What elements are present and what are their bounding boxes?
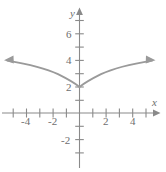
y-tick-label-2: 2 bbox=[66, 82, 72, 93]
coordinate-plane-svg bbox=[0, 0, 166, 172]
x-tick-label--2: -2 bbox=[48, 116, 57, 127]
x-tick-label-2: 2 bbox=[103, 116, 109, 127]
curve-left-arrow-icon bbox=[4, 55, 14, 63]
curve-right-arrow-icon bbox=[146, 55, 156, 63]
y-tick-label-6: 6 bbox=[66, 29, 72, 40]
x-tick-label-4: 4 bbox=[130, 116, 136, 127]
y-axis-label: y bbox=[70, 8, 75, 19]
x-tick-label--4: -4 bbox=[21, 116, 30, 127]
graph-figure: -4 -2 2 4 6 4 2 -2 x y bbox=[0, 0, 166, 172]
y-axis-arrow-icon bbox=[76, 8, 83, 16]
y-tick-label--2: -2 bbox=[61, 135, 70, 146]
y-tick-label-4: 4 bbox=[66, 55, 72, 66]
axes-group bbox=[2, 8, 161, 169]
x-axis-arrow-icon bbox=[153, 110, 161, 117]
x-axis-label: x bbox=[152, 97, 157, 108]
